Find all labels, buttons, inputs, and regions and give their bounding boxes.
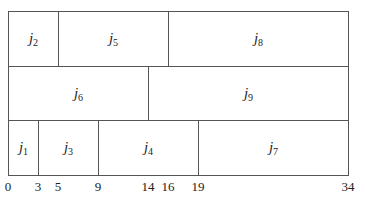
job-label: j7 [269,139,278,157]
job-index: 2 [33,37,38,48]
job-index: 8 [258,37,263,48]
axis-tick-label: 34 [342,179,355,195]
job-block-j7: j7 [198,120,349,176]
job-block-j8: j8 [168,11,349,67]
job-block-j1: j1 [8,120,39,176]
axis-tick-label: 9 [95,179,102,195]
job-label: j6 [74,85,83,103]
job-index: 3 [68,146,73,157]
job-block-j6: j6 [8,66,149,122]
job-block-j3: j3 [38,120,99,176]
axis-tick-label: 3 [35,179,42,195]
job-block-j9: j9 [148,66,349,122]
job-index: 6 [78,92,83,103]
job-index: 9 [248,92,253,103]
axis-tick-label: 5 [55,179,62,195]
job-label: j8 [254,30,263,48]
axis-tick-label: 16 [162,179,175,195]
job-label: j9 [244,85,253,103]
job-block-j4: j4 [98,120,199,176]
job-block-j5: j5 [58,11,169,67]
job-index: 4 [148,146,153,157]
job-index: 1 [23,146,28,157]
job-label: j4 [144,139,153,157]
job-index: 5 [113,37,118,48]
job-label: j1 [19,139,28,157]
job-label: j5 [109,30,118,48]
axis-tick-label: 19 [192,179,205,195]
job-index: 7 [273,146,278,157]
job-block-j2: j2 [8,11,59,67]
job-label: j3 [64,139,73,157]
axis-tick-label: 0 [5,179,12,195]
gantt-chart: j2j5j8j6j9j1j3j4j7035914161934 [0,0,365,201]
axis-tick-label: 14 [142,179,155,195]
job-label: j2 [29,30,38,48]
